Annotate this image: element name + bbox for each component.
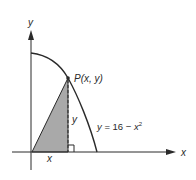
equation-mid: = 16 −: [102, 121, 134, 132]
point-p-label: P(x, y): [74, 73, 103, 84]
x-axis-label: x: [180, 147, 187, 158]
horizontal-segment-label: x: [46, 153, 53, 164]
right-angle-marker: [68, 145, 74, 152]
vertical-segment-label: y: [71, 114, 78, 125]
point-p-dot: [66, 76, 70, 80]
equation-exponent: 2: [139, 121, 143, 127]
shaded-triangle: [32, 78, 68, 152]
diagram-canvas: y x P(x, y) y x y = 16 − x2: [0, 0, 196, 180]
point-coords: (x, y): [81, 73, 103, 84]
x-axis-arrow-icon: [166, 149, 176, 155]
curve-equation-label: y = 16 − x2: [96, 121, 143, 132]
y-axis-label: y: [27, 17, 34, 28]
y-axis-arrow-icon: [28, 30, 34, 40]
